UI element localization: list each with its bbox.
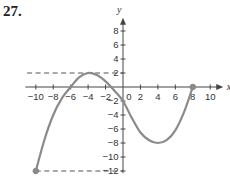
x-tick-label: 0	[126, 91, 131, 102]
y-tick-label: −6	[108, 123, 119, 134]
y-tick-label: −8	[108, 137, 119, 148]
y-tick-label: 8	[113, 25, 118, 36]
x-axis-arrow-icon	[216, 84, 223, 90]
axes: xy	[25, 4, 230, 173]
endpoint-dot	[190, 84, 196, 90]
y-tick-label: 4	[113, 53, 118, 64]
x-tick-label: −10	[28, 91, 44, 102]
y-tick-label: −2	[108, 95, 119, 106]
y-axis-label: y	[116, 4, 122, 15]
y-tick-label: −12	[102, 165, 118, 176]
y-tick-label: 2	[113, 67, 118, 78]
x-tick-label: 10	[205, 91, 216, 102]
y-axis-arrow-icon	[120, 18, 126, 25]
x-tick-label: 6	[173, 91, 178, 102]
y-tick-label: −10	[102, 151, 118, 162]
x-tick-label: 2	[138, 91, 143, 102]
y-tick-label: 6	[113, 39, 118, 50]
x-tick-label: −4	[83, 91, 94, 102]
function-graph: xy −10−8−6−4−202468108642−2−4−6−8−10−12	[0, 0, 230, 176]
endpoint-dot	[33, 168, 39, 174]
y-tick-label: −4	[108, 109, 119, 120]
x-axis-label: x	[226, 81, 230, 92]
x-tick-label: 4	[155, 91, 160, 102]
x-tick-label: −8	[48, 91, 59, 102]
